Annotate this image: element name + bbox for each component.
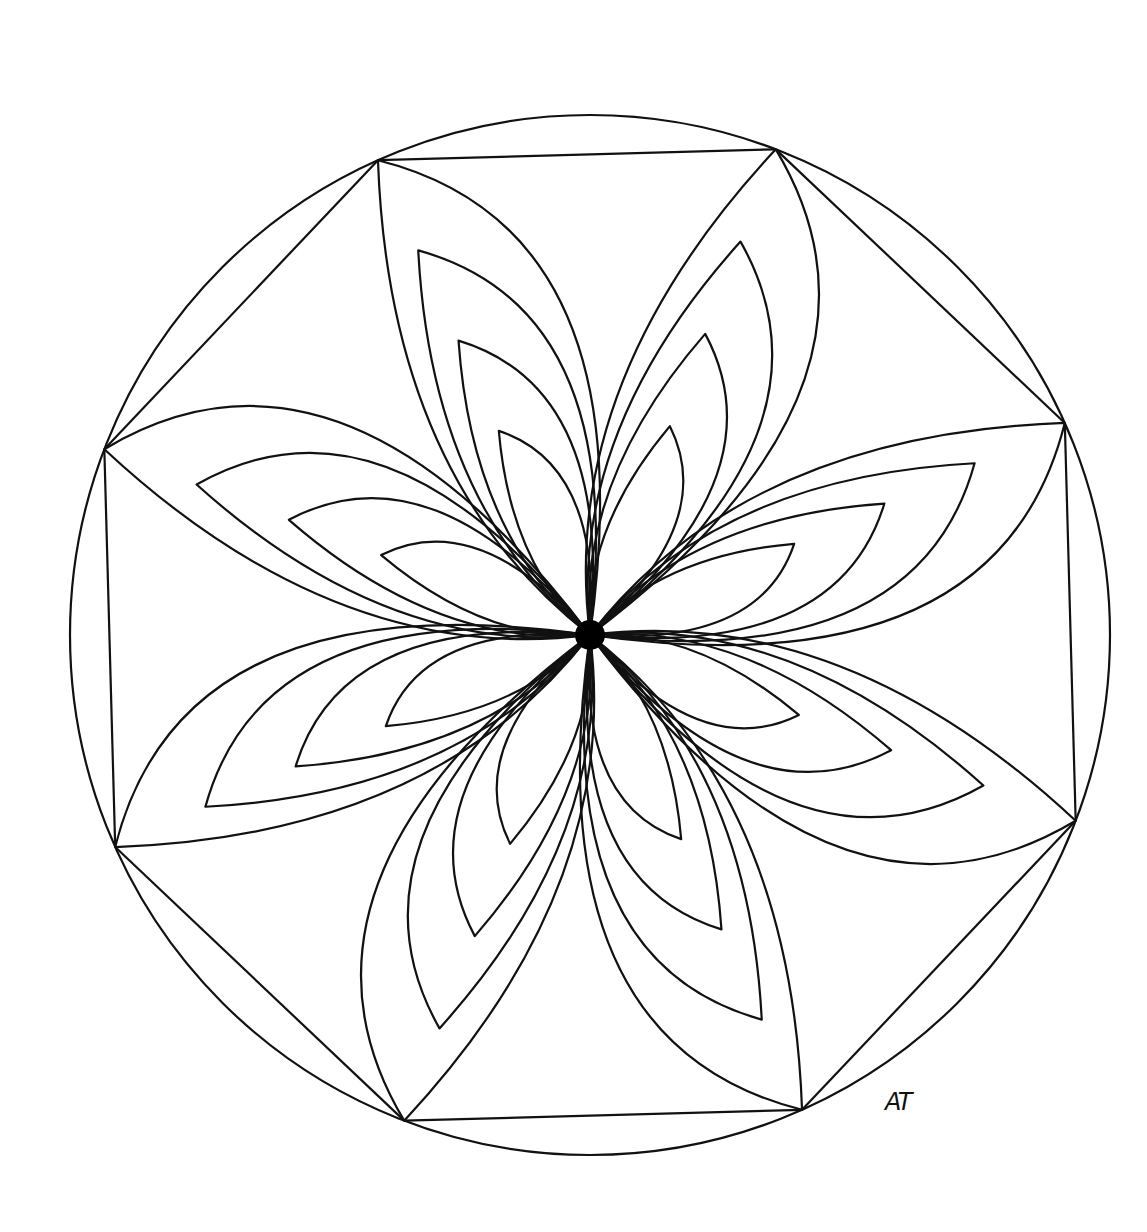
petal-layer (588, 242, 773, 635)
petal-layer (590, 634, 799, 728)
petal-layer (589, 426, 683, 635)
petal-layer (205, 629, 590, 807)
petal-layer (408, 635, 593, 1028)
petal-layer (590, 504, 884, 639)
artist-signature: AT (885, 1088, 910, 1116)
octagon-chord (378, 149, 776, 160)
petal-layer (590, 633, 983, 818)
petal-layer (589, 334, 727, 635)
mandala-artwork (0, 0, 1147, 1232)
octagon-chord (1065, 423, 1076, 821)
petal-layer (381, 542, 590, 636)
petal-layer (296, 632, 590, 767)
petal-layer (587, 635, 722, 929)
petal-layer (453, 635, 591, 936)
petal-layer (115, 625, 590, 847)
petal-layer (590, 634, 891, 772)
petal-layer (378, 160, 600, 635)
center-dot (575, 620, 605, 650)
petal-layer (289, 498, 590, 636)
octagon-chord (104, 449, 115, 847)
petal-layer (580, 635, 802, 1110)
petal-layer (459, 341, 594, 635)
petal-layer (197, 453, 590, 638)
petal-layer (590, 463, 975, 641)
petal-layer (590, 423, 1065, 645)
petal-layer (418, 250, 596, 635)
petal-layer (497, 635, 591, 844)
petal-layer (584, 635, 762, 1020)
octagon-chord (404, 1110, 802, 1121)
